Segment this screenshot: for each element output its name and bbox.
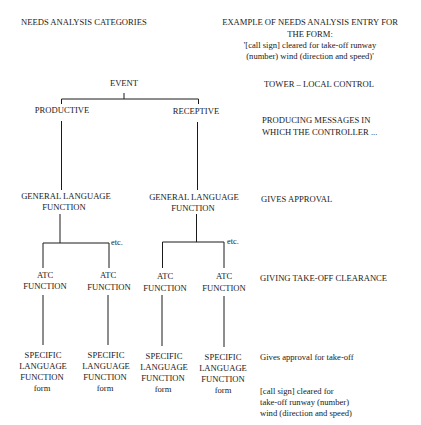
example-specific: Gives approval for take-off: [260, 352, 354, 363]
tree-node-slf3-line2: LANGUAGE: [140, 362, 188, 373]
tree-node-atc1-line2: FUNCTION: [23, 281, 66, 292]
tree-node-glf-left-line1: GENERAL LANGUAGE: [21, 191, 111, 202]
example-form-line2: take-off runway (number): [260, 397, 349, 408]
tree-node-atc2-line1: ATC: [100, 270, 116, 281]
tree-node-atc3-line2: FUNCTION: [143, 283, 186, 294]
tree-node-productive: PRODUCTIVE: [35, 105, 89, 116]
etc-label-right: etc.: [227, 236, 239, 247]
tree-node-atc4-line1: ATC: [216, 271, 232, 282]
tree-node-slf4-line4: form: [215, 385, 232, 396]
tree-node-slf3-line1: SPECIFIC: [146, 351, 183, 362]
tree-node-atc1-line1: ATC: [37, 270, 53, 281]
tree-node-slf4-line3: FUNCTION: [201, 374, 244, 385]
tree-node-slf1-line1: SPECIFIC: [25, 350, 62, 361]
tree-node-atc4-line2: FUNCTION: [202, 283, 245, 294]
tree-node-atc2-line2: FUNCTION: [87, 282, 130, 293]
example-form-line1: [call sign] cleared for: [260, 386, 334, 397]
example-form-line3: wind (direction and speed): [260, 408, 352, 419]
tree-node-event: EVENT: [110, 78, 138, 89]
tree-node-atc3-line1: ATC: [157, 271, 173, 282]
tree-node-slf3-line4: form: [155, 384, 172, 395]
example-atc: GIVING TAKE-OFF CLEARANCE: [260, 273, 387, 284]
example-mode-line1: PRODUCING MESSAGES IN: [262, 115, 370, 126]
example-event: TOWER – LOCAL CONTROL: [264, 79, 374, 90]
categories-header: NEEDS ANALYSIS CATEGORIES: [21, 17, 147, 28]
tree-node-receptive: RECEPTIVE: [173, 106, 219, 117]
tree-node-slf2-line4: form: [97, 383, 114, 394]
example-header-line1: EXAMPLE OF NEEDS ANALYSIS ENTRY FOR: [222, 17, 398, 28]
tree-node-slf4-line2: LANGUAGE: [199, 363, 247, 374]
example-mode-line2: WHICH THE CONTROLLER ...: [262, 127, 377, 138]
tree-node-glf-right-line2: FUNCTION: [171, 203, 214, 214]
tree-node-slf2-line3: FUNCTION: [83, 372, 126, 383]
example-general: GIVES APPROVAL: [261, 194, 332, 205]
tree-node-glf-right-line1: GENERAL LANGUAGE: [149, 192, 239, 203]
example-header-line2: THE FORM:: [287, 29, 333, 40]
tree-node-slf1-line4: form: [34, 383, 51, 394]
tree-node-slf1-line3: FUNCTION: [20, 372, 63, 383]
etc-label-left: etc.: [111, 237, 123, 248]
example-form-line2: (number) wind (direction and speed)': [246, 51, 374, 62]
example-form-line1: '[call sign] cleared for take-off runway: [244, 40, 376, 51]
tree-node-slf1-line2: LANGUAGE: [19, 361, 67, 372]
tree-node-slf4-line1: SPECIFIC: [205, 352, 242, 363]
tree-node-glf-left-line2: FUNCTION: [42, 202, 85, 213]
tree-node-slf2-line1: SPECIFIC: [88, 350, 125, 361]
tree-node-slf3-line3: FUNCTION: [141, 373, 184, 384]
tree-node-slf2-line2: LANGUAGE: [82, 361, 130, 372]
